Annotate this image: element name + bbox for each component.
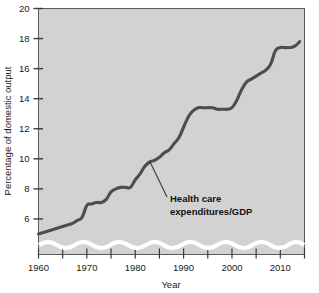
x-tick-label: 1960 xyxy=(28,262,49,273)
line-chart: 68101214161820 196019701980199020002010 … xyxy=(0,0,319,293)
x-tick-label: 1980 xyxy=(125,262,146,273)
y-tick-label: 8 xyxy=(24,183,29,194)
y-tick-label: 12 xyxy=(19,123,30,134)
x-tick-label: 1990 xyxy=(173,262,194,273)
y-tick-label: 18 xyxy=(19,33,30,44)
x-tick-label: 2000 xyxy=(221,262,242,273)
chart-figure: 68101214161820 196019701980199020002010 … xyxy=(0,0,319,293)
y-axis-title: Percentage of domestic output xyxy=(2,66,13,195)
y-tick-label: 20 xyxy=(19,3,30,14)
x-tick-label: 2010 xyxy=(270,262,291,273)
y-tick-label: 10 xyxy=(19,153,30,164)
plot-area xyxy=(39,9,305,255)
y-tick-label: 14 xyxy=(19,93,30,104)
x-tick-label: 1970 xyxy=(76,262,97,273)
annotation-label-line2: expenditures/GDP xyxy=(170,206,253,217)
annotation-label-line1: Health care xyxy=(170,193,221,204)
x-axis-title: Year xyxy=(161,279,180,290)
y-tick-label: 6 xyxy=(24,213,29,224)
y-tick-label: 16 xyxy=(19,63,30,74)
